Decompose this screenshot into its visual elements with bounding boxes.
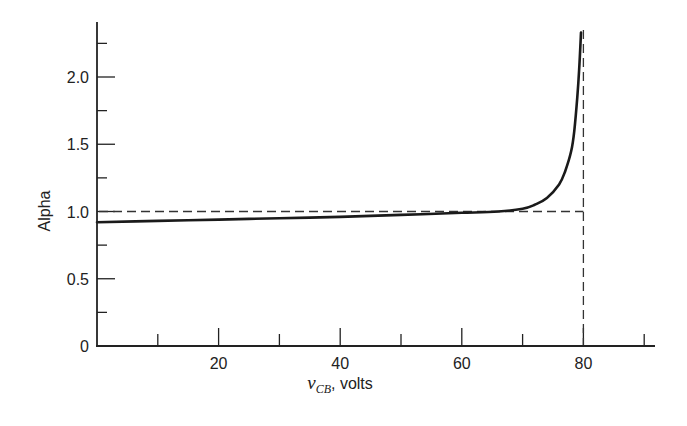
y-tick-label: 1.0 (67, 204, 89, 221)
y-tick-label: 2.0 (67, 69, 89, 86)
y-tick-labels: 00.51.01.52.0 (67, 69, 89, 355)
x-axis-title: vCB, volts (307, 372, 373, 396)
y-minor-ticks (97, 43, 107, 312)
x-tick-label: 80 (575, 355, 593, 372)
y-axis-title: Alpha (36, 190, 53, 231)
x-tick-labels: 20406080 (210, 355, 593, 372)
x-ticks (158, 328, 644, 346)
y-tick-label: 0.5 (67, 271, 89, 288)
y-tick-label: 0 (80, 338, 89, 355)
x-tick-label: 60 (453, 355, 471, 372)
alpha-curve (97, 33, 581, 223)
y-tick-label: 1.5 (67, 136, 89, 153)
x-tick-label: 20 (210, 355, 228, 372)
chart: 00.51.01.52.0 20406080 Alpha vCB, volts (0, 0, 687, 426)
x-tick-label: 40 (331, 355, 349, 372)
